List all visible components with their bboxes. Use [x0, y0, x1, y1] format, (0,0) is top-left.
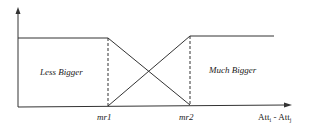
mr2-label: mr2: [179, 112, 194, 122]
x-axis-arrow-icon: [284, 103, 292, 108]
x-axis: [18, 105, 286, 107]
mr1-label: mr1: [97, 112, 112, 122]
less-bigger-label: Less Bigger: [39, 67, 83, 77]
much-bigger-label: Much Bigger: [208, 65, 257, 75]
y-axis-arrow-icon: [16, 7, 21, 14]
x-axis-label: Atti - Attj: [258, 112, 292, 123]
membership-diagram: Less Bigger Much Bigger mr1 mr2 Atti - A…: [0, 0, 319, 127]
